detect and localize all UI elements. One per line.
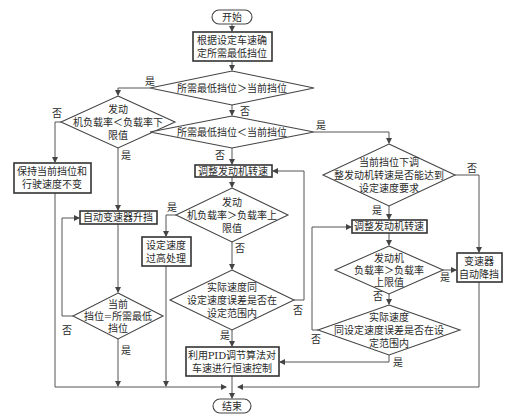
label-d1-yes: 是 <box>145 76 155 87</box>
svg-text:结束: 结束 <box>222 400 242 412</box>
svg-text:变速器: 变速器 <box>464 255 494 267</box>
svg-text:机负载率＜负载率下: 机负载率＜负载率下 <box>73 116 163 128</box>
svg-text:设定范围内: 设定范围内 <box>207 307 257 319</box>
label-d4-no: 否 <box>235 243 245 254</box>
load-lower-decision: 发动 机负载率＜负载率下 限值 <box>61 96 175 148</box>
svg-text:所需最低挡位＞当前挡位: 所需最低挡位＞当前挡位 <box>177 82 287 94</box>
svg-text:自动降挡: 自动降挡 <box>459 268 499 280</box>
svg-text:整发动机转速是否能达到: 整发动机转速是否能达到 <box>334 169 444 181</box>
svg-text:定所需最低挡位: 定所需最低挡位 <box>197 47 267 59</box>
can-reach-speed-decision: 当前挡位下调 整发动机转速是否能达到 设定速度要求 <box>323 144 455 206</box>
svg-text:车速进行恒速控制: 车速进行恒速控制 <box>192 362 272 374</box>
end-terminal: 结束 <box>213 399 251 413</box>
label-d2-yes: 是 <box>121 150 131 161</box>
svg-text:设定速度: 设定速度 <box>146 239 186 251</box>
svg-text:发动: 发动 <box>108 103 128 115</box>
svg-text:实际速度同: 实际速度同 <box>207 281 257 293</box>
label-d9-yes: 是 <box>393 357 403 368</box>
svg-text:实际速度: 实际速度 <box>369 311 409 323</box>
svg-text:过高处理: 过高处理 <box>146 252 186 264</box>
label-d3-no: 否 <box>215 150 225 161</box>
svg-text:负载率＞负载率: 负载率＞负载率 <box>354 264 424 276</box>
label-d4-yes: 是 <box>167 202 177 213</box>
gear-less-decision: 所需最低挡位＜当前挡位 <box>150 116 314 148</box>
svg-text:当前挡位下调: 当前挡位下调 <box>359 156 419 168</box>
adjust-rpm-mid-box: 调整发动机转速 <box>195 165 272 177</box>
load-upper-right-decision: 发动机 负载率＞负载率 上限值 <box>335 246 443 294</box>
svg-text:所需最低挡位＜当前挡位: 所需最低挡位＜当前挡位 <box>177 126 287 138</box>
label-d6-no: 否 <box>293 305 303 316</box>
label-d5-no: 否 <box>62 325 72 336</box>
flowchart-canvas: 开始 根据设定车速确 定所需最低挡位 所需最低挡位＞当前挡位 发动 机负载率＜负… <box>0 0 510 419</box>
svg-text:行驶速度不变: 行驶速度不变 <box>22 178 82 190</box>
speed-error-mid-decision: 实际速度同 设定速度误差是否在 设定范围内 <box>170 270 294 330</box>
svg-text:上限值: 上限值 <box>374 276 404 288</box>
label-d5-yes: 是 <box>121 345 131 356</box>
pid-control-box: 利用PID调节算法对 车速进行恒速控制 <box>186 347 279 376</box>
svg-text:挡位: 挡位 <box>108 322 128 334</box>
gear-equal-decision: 当前 挡位=所需最低 挡位 <box>73 293 163 339</box>
svg-text:发动机: 发动机 <box>374 252 404 264</box>
speed-too-high-box: 设定速度 过高处理 <box>142 237 191 266</box>
label-d7-yes: 是 <box>372 205 382 216</box>
svg-text:设定速度要求: 设定速度要求 <box>359 182 419 194</box>
upshift-box: 自动变速器升挡 <box>80 211 157 224</box>
label-d9-no: 否 <box>311 334 321 345</box>
svg-text:设定速度误差是否在: 设定速度误差是否在 <box>187 294 277 306</box>
start-terminal: 开始 <box>212 10 252 24</box>
adjust-rpm-right-box: 调整发动机转速 <box>352 220 427 233</box>
svg-text:调整发动机转速: 调整发动机转速 <box>198 165 268 177</box>
svg-text:发动: 发动 <box>222 196 242 208</box>
label-d3-yes: 是 <box>316 120 326 131</box>
svg-text:同设定速度误差是否在设: 同设定速度误差是否在设 <box>334 324 444 336</box>
svg-text:根据设定车速确: 根据设定车速确 <box>197 34 267 46</box>
svg-text:限值: 限值 <box>222 222 242 234</box>
label-d7-no: 否 <box>467 163 477 174</box>
svg-text:机负载率＞负载率上: 机负载率＞负载率上 <box>187 209 277 221</box>
svg-text:当前: 当前 <box>108 298 128 310</box>
svg-text:调整发动机转速: 调整发动机转速 <box>354 220 424 232</box>
svg-text:自动变速器升挡: 自动变速器升挡 <box>83 211 153 223</box>
downshift-box: 变速器 自动降挡 <box>457 253 502 282</box>
label-d8-no: 否 <box>373 291 383 302</box>
speed-error-right-decision: 实际速度 同设定速度误差是否在设 定范围内 <box>318 305 460 355</box>
svg-text:保持当前挡位和: 保持当前挡位和 <box>17 165 87 177</box>
label-d8-yes: 是 <box>440 272 450 283</box>
keep-gear-box: 保持当前挡位和 行驶速度不变 <box>14 163 91 193</box>
label-d1-no: 否 <box>240 106 250 117</box>
svg-text:开始: 开始 <box>222 11 242 23</box>
load-upper-mid-decision: 发动 机负载率＞负载率上 限值 <box>176 188 288 242</box>
svg-text:挡位=所需最低: 挡位=所需最低 <box>84 310 152 322</box>
svg-text:限值: 限值 <box>108 129 128 141</box>
svg-text:定范围内: 定范围内 <box>369 337 409 349</box>
determine-gear-box: 根据设定车速确 定所需最低挡位 <box>193 32 272 61</box>
svg-text:利用PID调节算法对: 利用PID调节算法对 <box>188 349 277 361</box>
label-d6-yes: 是 <box>220 330 230 341</box>
gear-greater-decision: 所需最低挡位＞当前挡位 <box>150 71 314 105</box>
label-d2-no: 否 <box>52 108 62 119</box>
